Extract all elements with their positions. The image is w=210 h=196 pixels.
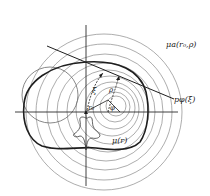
diagram-canvas: μa(r₀,ρ) pφ(ξ) μ(r) ξ ρ φ r₀	[0, 0, 210, 196]
label-outer-family: μa(r₀,ρ)	[166, 40, 197, 49]
label-r0: r₀	[88, 104, 94, 112]
label-indicatrix: μ(r)	[112, 136, 127, 145]
label-phi: φ	[110, 104, 115, 112]
label-rho: ρ	[108, 86, 114, 94]
label-xi: ξ	[92, 86, 97, 95]
label-tangent-line: pφ(ξ)	[174, 95, 195, 104]
